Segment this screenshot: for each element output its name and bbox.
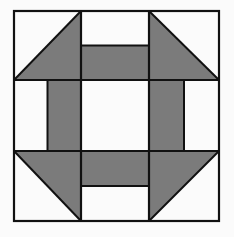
- quilt-block: [0, 0, 234, 237]
- edge-bottom-piece: [81, 151, 149, 186]
- edge-top-dark-bar: [81, 46, 149, 81]
- edge-right-dark-bar: [149, 80, 184, 151]
- edge-left-piece: [48, 80, 82, 151]
- edge-bottom-dark-bar: [81, 151, 149, 186]
- edge-left-dark-bar: [48, 80, 82, 151]
- edge-top-piece: [81, 46, 149, 81]
- edge-right-piece: [149, 80, 184, 151]
- block-background: [14, 11, 219, 221]
